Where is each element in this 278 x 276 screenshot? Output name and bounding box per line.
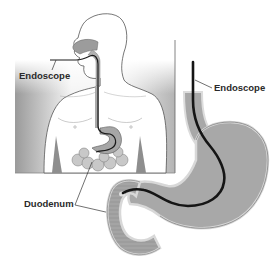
label-duodenum: Duodenum xyxy=(24,199,74,209)
leader-endoscope-right xyxy=(195,80,212,88)
label-endoscope-body: Endoscope xyxy=(19,71,70,81)
diagram-canvas xyxy=(0,0,278,276)
endoscopy-diagram: Endoscope Endoscope Duodenum xyxy=(0,0,278,276)
label-endoscope-detail: Endoscope xyxy=(214,83,265,93)
